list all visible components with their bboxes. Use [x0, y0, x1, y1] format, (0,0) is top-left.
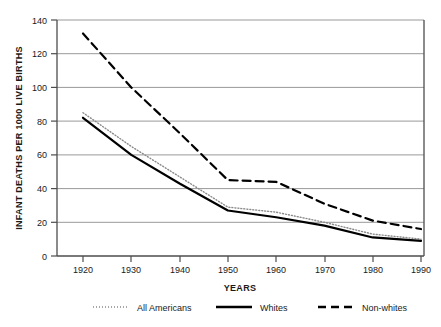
y-axis-title: INFANT DEATHS PER 1000 LIVE BIRTHS	[14, 46, 24, 230]
y-tick-label-120: 120	[32, 49, 47, 59]
y-tick-label-20: 20	[37, 218, 47, 228]
legend-label-whites: Whites	[260, 303, 288, 313]
chart-figure: 140 120 100 80 60 40 20 0 1920 1930 1940…	[0, 0, 441, 327]
legend-label-all-americans: All Americans	[137, 303, 192, 313]
x-axis-title: YEARS	[224, 283, 257, 293]
x-tick-label-1960: 1960	[266, 265, 286, 275]
x-tick-label-1920: 1920	[73, 265, 93, 275]
y-tick-label-60: 60	[37, 150, 47, 160]
x-tick-label-1970: 1970	[315, 265, 335, 275]
x-tick-label-1990: 1990	[411, 265, 431, 275]
legend-label-non-whites: Non-whites	[362, 303, 408, 313]
y-tick-label-100: 100	[32, 83, 47, 93]
y-tick-label-140: 140	[32, 16, 47, 26]
y-tick-label-0: 0	[42, 252, 47, 262]
x-tick-label-1930: 1930	[121, 265, 141, 275]
chart-background	[0, 0, 441, 327]
y-tick-label-40: 40	[37, 184, 47, 194]
y-tick-label-80: 80	[37, 117, 47, 127]
x-tick-label-1980: 1980	[363, 265, 383, 275]
x-tick-label-1940: 1940	[170, 265, 190, 275]
infant-mortality-line-chart: 140 120 100 80 60 40 20 0 1920 1930 1940…	[0, 0, 441, 327]
x-tick-label-1950: 1950	[218, 265, 238, 275]
